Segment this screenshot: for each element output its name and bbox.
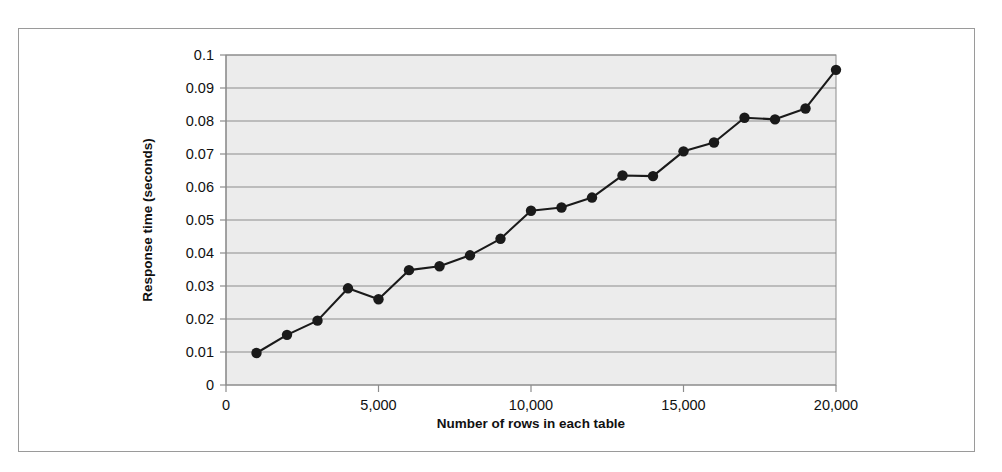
x-axis-ticks (226, 385, 836, 392)
y-tick-label: 0 (206, 377, 214, 393)
y-tick-label: 0.02 (186, 311, 214, 327)
data-point (343, 283, 353, 293)
y-tick-label: 0.09 (186, 80, 214, 96)
x-axis-title: Number of rows in each table (437, 416, 626, 431)
y-tick-label: 0.08 (186, 113, 214, 129)
data-point (465, 250, 475, 260)
data-point (434, 261, 444, 271)
y-tick-label: 0.01 (186, 344, 214, 360)
data-point (373, 294, 383, 304)
y-tick-label: 0.03 (186, 278, 214, 294)
y-axis-title: Response time (seconds) (140, 138, 155, 302)
data-point (495, 234, 505, 244)
data-point (800, 103, 810, 113)
data-point (556, 202, 566, 212)
data-point (526, 206, 536, 216)
data-point (831, 65, 841, 75)
data-point (282, 330, 292, 340)
data-point (312, 315, 322, 325)
data-point (739, 113, 749, 123)
figure-container: 00.010.020.030.040.050.060.070.080.090.1… (0, 0, 1002, 472)
y-axis-tick-labels: 00.010.020.030.040.050.060.070.080.090.1 (186, 47, 214, 393)
y-axis-ticks (220, 55, 226, 385)
y-tick-label: 0.07 (186, 146, 214, 162)
x-tick-label: 10,000 (509, 397, 553, 413)
y-tick-label: 0.1 (194, 47, 214, 63)
data-point (617, 170, 627, 180)
data-point (709, 137, 719, 147)
data-point (587, 192, 597, 202)
data-point (251, 348, 261, 358)
x-tick-label: 5,000 (360, 397, 396, 413)
data-point (404, 265, 414, 275)
x-tick-label: 0 (222, 397, 230, 413)
x-axis-tick-labels: 05,00010,00015,00020,000 (222, 397, 858, 413)
x-tick-label: 20,000 (814, 397, 858, 413)
line-chart: 00.010.020.030.040.050.060.070.080.090.1… (0, 0, 1002, 472)
y-tick-label: 0.06 (186, 179, 214, 195)
y-tick-label: 0.04 (186, 245, 214, 261)
data-point (648, 171, 658, 181)
data-point (678, 146, 688, 156)
data-point (770, 114, 780, 124)
x-tick-label: 15,000 (661, 397, 705, 413)
y-tick-label: 0.05 (186, 212, 214, 228)
